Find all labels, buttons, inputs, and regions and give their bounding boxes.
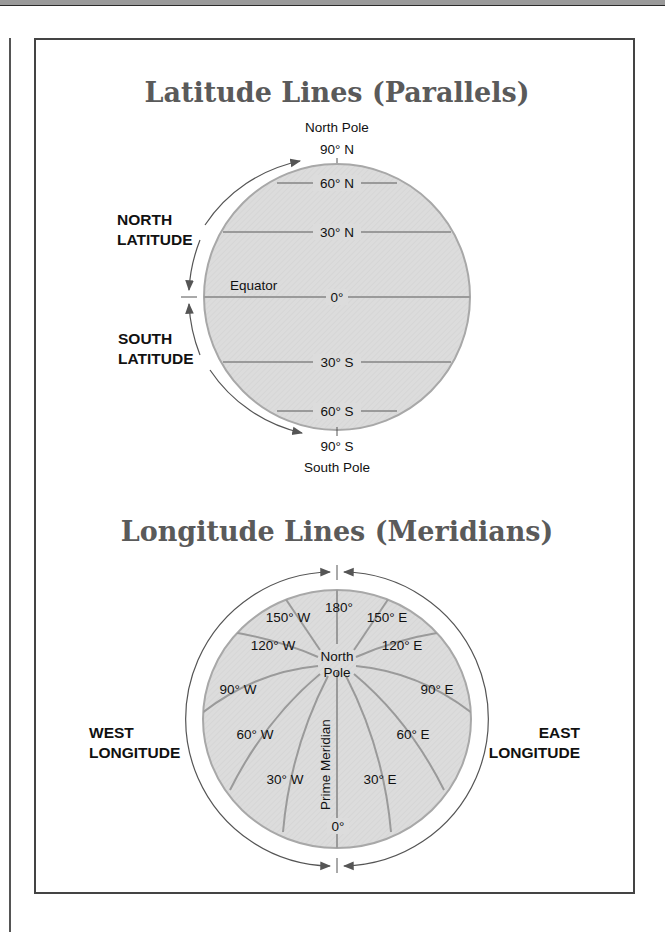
meridian-90w: 90° W [220,682,257,697]
meridian-150e: 150° E [367,610,408,625]
east-longitude-line2: LONGITUDE [489,744,580,761]
longitude-title: Longitude Lines (Meridians) [121,516,554,547]
south-pole-label: South Pole [304,460,370,475]
label-90s: 90° S [320,439,353,454]
north-pole-line2: Pole [323,665,350,680]
south-latitude-line2: LATITUDE [118,350,193,367]
south-latitude-line1: SOUTH [118,330,172,347]
meridian-120e: 120° E [382,638,423,653]
diagram-canvas: Latitude Lines (Parallels) North Pole 90… [0,0,665,932]
meridian-180: 180° [325,600,353,615]
west-longitude-line1: WEST [89,724,134,741]
meridian-30e: 30° E [363,772,396,787]
equator-label: Equator [230,278,278,293]
label-30s: 30° S [320,355,353,370]
meridian-0: 0° [332,819,345,834]
west-longitude-line2: LONGITUDE [89,744,180,761]
meridian-150w: 150° W [266,610,311,625]
east-longitude-line1: EAST [539,724,581,741]
north-pole-line1: North [320,649,353,664]
longitude-diagram: Longitude Lines (Meridians) 180° 150° W [89,516,581,873]
label-30n: 30° N [320,225,354,240]
label-60n: 60° N [320,176,354,191]
label-60s: 60° S [320,404,353,419]
north-latitude-line2: LATITUDE [117,231,192,248]
latitude-diagram: Latitude Lines (Parallels) North Pole 90… [117,77,529,475]
south-arrow-up [189,304,200,355]
meridian-120w: 120° W [251,638,296,653]
label-0: 0° [331,290,344,305]
prime-meridian-label: Prime Meridian [318,719,333,810]
ring-left [186,660,198,778]
label-90n: 90° N [320,142,354,157]
meridian-60e: 60° E [396,727,429,742]
meridian-90e: 90° E [420,682,453,697]
north-latitude-line1: NORTH [117,211,172,228]
latitude-title: Latitude Lines (Parallels) [145,77,530,108]
meridian-60w: 60° W [237,727,274,742]
ring-right [476,660,488,778]
meridian-30w: 30° W [267,772,304,787]
north-pole-label: North Pole [305,120,369,135]
